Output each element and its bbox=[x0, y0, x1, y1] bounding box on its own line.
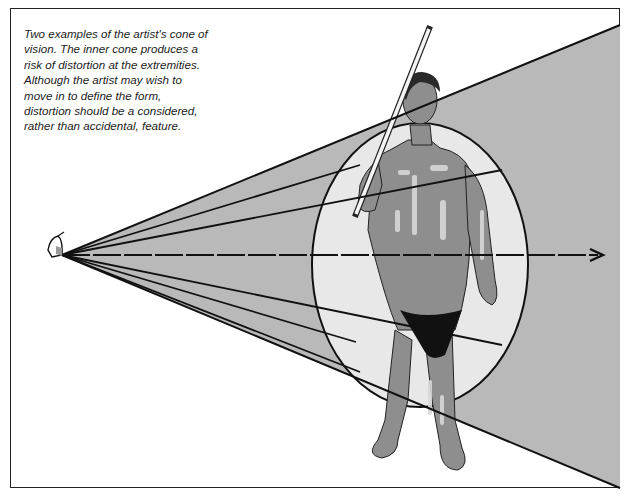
caption-line: rather than accidental, feature. bbox=[24, 118, 254, 133]
caption-line: move in to define the form, bbox=[24, 88, 254, 103]
caption-line: distortion should be a considered, bbox=[24, 103, 254, 118]
caption-line: Although the artist may wish to bbox=[24, 72, 254, 87]
eye-icon bbox=[48, 232, 64, 257]
caption-line: vision. The inner cone produces a bbox=[24, 41, 254, 56]
caption-text: Two examples of the artist's cone of vis… bbox=[24, 26, 254, 134]
caption-line: risk of distortion at the extremities. bbox=[24, 57, 254, 72]
caption-line: Two examples of the artist's cone of bbox=[24, 26, 254, 41]
